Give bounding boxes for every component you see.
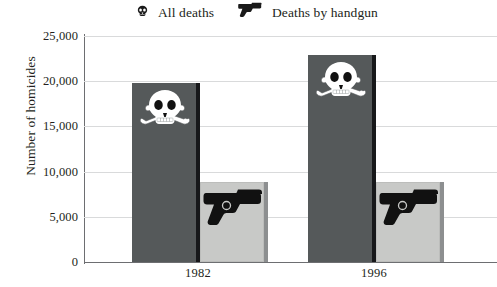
bar-face xyxy=(376,182,440,262)
bar-face xyxy=(200,182,264,262)
y-axis-tick-labels: 25,000 20,000 15,000 10,000 5,000 0 xyxy=(10,0,78,287)
gridline-25000 xyxy=(84,36,497,37)
bar-side-shadow xyxy=(264,182,268,262)
bar-1982-all-deaths[interactable] xyxy=(132,83,196,262)
y-tick-25000: 25,000 xyxy=(16,29,78,44)
plot-area xyxy=(84,36,497,262)
bar-side-shadow xyxy=(440,182,444,262)
skull-and-crossbones-icon xyxy=(136,4,149,22)
gridline-20000 xyxy=(84,81,497,82)
x-tick-label-1996: 1996 xyxy=(361,266,387,281)
legend-item-deaths-by-handgun[interactable]: Deaths by handgun xyxy=(238,2,378,23)
legend-item-all-deaths[interactable]: All deaths xyxy=(136,4,214,22)
bar-1982-deaths-by-handgun[interactable] xyxy=(200,182,264,262)
homicides-bar-chart: All deaths Deaths by handgun Number of h… xyxy=(0,0,497,287)
y-tick-10000: 10,000 xyxy=(16,165,78,180)
x-axis-line xyxy=(84,262,497,263)
bar-face xyxy=(308,55,372,262)
bar-1996-deaths-by-handgun[interactable] xyxy=(376,182,440,262)
handgun-icon xyxy=(238,2,262,23)
bar-1996-all-deaths[interactable] xyxy=(308,55,372,262)
legend-label-deaths-by-handgun: Deaths by handgun xyxy=(272,6,378,20)
y-tick-0: 0 xyxy=(16,255,78,270)
y-tick-5000: 5,000 xyxy=(16,210,78,225)
legend-label-all-deaths: All deaths xyxy=(158,6,214,20)
x-tick-label-1982: 1982 xyxy=(185,266,211,281)
y-tick-20000: 20,000 xyxy=(16,74,78,89)
y-tick-15000: 15,000 xyxy=(16,119,78,134)
bar-face xyxy=(132,83,196,262)
